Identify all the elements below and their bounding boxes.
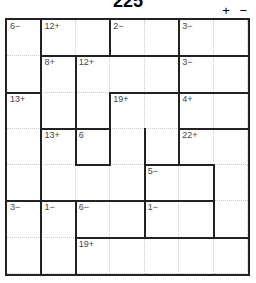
cage-border xyxy=(213,200,215,238)
grid-cell[interactable] xyxy=(76,20,110,56)
grid-cell[interactable] xyxy=(214,129,248,165)
zoom-controls: + − xyxy=(222,3,250,18)
cage-border xyxy=(109,92,145,94)
cage-border xyxy=(40,128,76,130)
cage-clue: 12+ xyxy=(79,57,94,67)
cage-border xyxy=(178,237,214,239)
cage-border xyxy=(109,92,111,130)
grid-cell[interactable] xyxy=(110,129,144,165)
cage-border xyxy=(109,200,145,202)
cage-border xyxy=(109,237,145,239)
cage-clue: 19+ xyxy=(79,239,94,249)
cage-border xyxy=(178,200,214,202)
grid-cell[interactable] xyxy=(179,238,213,274)
cage-border xyxy=(144,200,146,238)
grid-cell[interactable] xyxy=(145,56,179,92)
cage-border xyxy=(178,19,180,57)
cage-border xyxy=(144,92,180,94)
cage-clue: 13+ xyxy=(10,94,25,104)
cage-border xyxy=(213,128,249,130)
grid-cell[interactable] xyxy=(214,20,248,56)
cage-border xyxy=(144,200,180,202)
cage-clue: 22+ xyxy=(182,130,197,140)
grid-cell[interactable] xyxy=(76,93,110,129)
cage-border xyxy=(75,200,111,202)
cage-border xyxy=(40,164,42,202)
grid-cell[interactable] xyxy=(145,93,179,129)
cage-clue: 8+ xyxy=(44,57,54,67)
cage-border xyxy=(144,55,180,57)
zoom-in-button[interactable]: + xyxy=(222,3,233,18)
grid-cell[interactable] xyxy=(41,165,75,201)
cage-clue: 3− xyxy=(10,202,20,212)
cage-border xyxy=(178,128,214,130)
grid-cell[interactable] xyxy=(214,56,248,92)
cage-clue: 1− xyxy=(148,202,158,212)
cage-border xyxy=(75,55,111,57)
grid-cell[interactable] xyxy=(110,165,144,201)
grid-cell[interactable] xyxy=(214,238,248,274)
grid-cell[interactable] xyxy=(145,20,179,56)
grid-cell[interactable] xyxy=(7,56,41,92)
cage-border xyxy=(6,92,42,94)
cage-border xyxy=(40,92,42,130)
cage-clue: 5− xyxy=(148,166,158,176)
puzzle-title: 225 xyxy=(0,0,256,12)
cage-clue: 19+ xyxy=(113,94,128,104)
cage-border xyxy=(144,164,146,202)
cage-border xyxy=(40,200,42,238)
cage-border xyxy=(144,128,146,166)
cage-border xyxy=(178,164,214,166)
grid-cell[interactable] xyxy=(179,165,213,201)
grid-cell[interactable] xyxy=(110,56,144,92)
cage-clue: 6− xyxy=(10,21,20,31)
cage-border xyxy=(40,19,42,57)
cage-border xyxy=(213,237,249,239)
cage-clue: 1− xyxy=(44,202,54,212)
cage-border xyxy=(75,128,77,166)
grid-cell[interactable] xyxy=(7,238,41,274)
cage-border xyxy=(75,92,77,130)
cage-border xyxy=(144,237,180,239)
cage-clue: 4+ xyxy=(182,94,192,104)
grid-cell[interactable] xyxy=(214,93,248,129)
cage-clue: 2− xyxy=(113,21,123,31)
cage-border xyxy=(178,92,180,130)
cage-border xyxy=(213,55,249,57)
grid-cell[interactable] xyxy=(7,129,41,165)
grid-cell[interactable] xyxy=(179,201,213,237)
grid-cell[interactable] xyxy=(214,165,248,201)
grid-cell[interactable] xyxy=(145,129,179,165)
cage-border xyxy=(6,200,42,202)
cage-clue: 6 xyxy=(79,130,84,140)
grid-cell[interactable] xyxy=(110,201,144,237)
cage-border xyxy=(75,200,77,238)
cage-border xyxy=(178,55,180,93)
cage-clue: 13+ xyxy=(44,130,59,140)
cage-border xyxy=(40,200,76,202)
cage-border xyxy=(109,55,145,57)
cage-border xyxy=(178,55,214,57)
cage-border xyxy=(75,237,111,239)
cage-border xyxy=(40,55,76,57)
cage-clue: 3− xyxy=(182,57,192,67)
grid-cell[interactable] xyxy=(41,238,75,274)
grid-cell[interactable] xyxy=(7,165,41,201)
cage-clue: 12+ xyxy=(44,21,59,31)
cage-clue: 3− xyxy=(182,21,192,31)
cage-border xyxy=(75,55,77,93)
grid-cell[interactable] xyxy=(214,201,248,237)
cage-border xyxy=(40,237,42,275)
cage-border xyxy=(75,237,77,275)
cage-border xyxy=(213,92,249,94)
cage-border xyxy=(144,164,180,166)
grid-cell[interactable] xyxy=(110,238,144,274)
grid-cell[interactable] xyxy=(41,93,75,129)
cage-border xyxy=(109,128,111,166)
grid-cell[interactable] xyxy=(76,165,110,201)
kenken-grid: 6−12+2−3−8+12+3−13+19+4+13+622+5−3−1−6−1… xyxy=(5,18,250,276)
grid-cell[interactable] xyxy=(145,238,179,274)
cage-border xyxy=(40,128,42,166)
zoom-out-button[interactable]: − xyxy=(239,3,250,18)
cage-border xyxy=(178,92,214,94)
